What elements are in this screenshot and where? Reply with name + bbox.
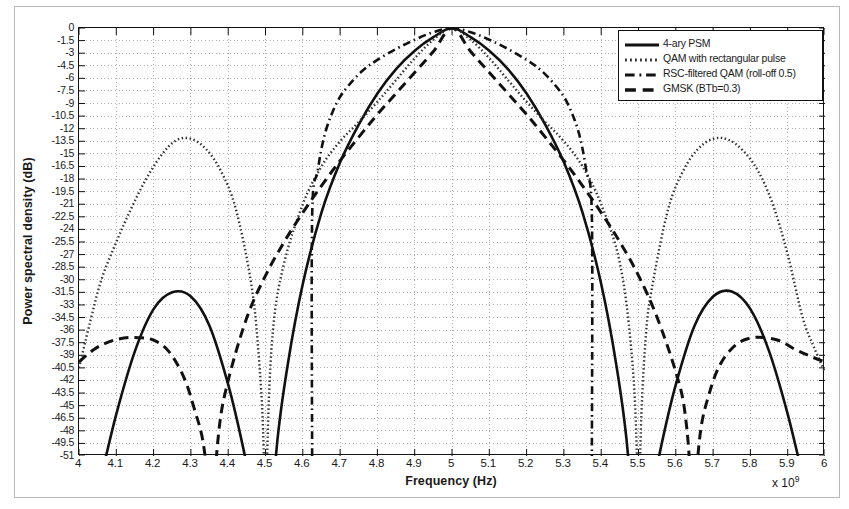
- x-tick-label: 4.2: [145, 457, 160, 469]
- x-axis-title: Frequency (Hz): [78, 474, 824, 488]
- x-tick-label: 5.3: [555, 457, 570, 469]
- y-tick-label: -6: [65, 72, 74, 83]
- y-tick-label: -34.5: [52, 311, 74, 322]
- legend-item-label: QAM with rectangular pulse: [663, 53, 785, 64]
- y-tick-label: -15: [60, 148, 74, 159]
- legend-item-3[interactable]: GMSK (BTb=0.3): [624, 81, 817, 95]
- chart-legend: 4-ary PSMQAM with rectangular pulseRSC-f…: [618, 30, 823, 101]
- y-tick-label: -24: [60, 223, 74, 234]
- x-tick-label: 6: [821, 457, 827, 469]
- x-tick-label: 5.8: [742, 457, 757, 469]
- x-axis-multiplier-exponent: 9: [795, 474, 800, 484]
- y-tick-label: -18: [60, 173, 74, 184]
- x-tick-label: 4.1: [108, 457, 123, 469]
- y-tick-label: -4.5: [57, 60, 74, 71]
- legend-item-1[interactable]: QAM with rectangular pulse: [624, 51, 817, 65]
- x-tick-label: 4: [75, 457, 81, 469]
- y-tick-label: 0: [68, 22, 74, 33]
- x-tick-label: 5: [448, 457, 454, 469]
- x-tick-label: 5.6: [667, 457, 682, 469]
- y-tick-label: -33: [60, 299, 74, 310]
- x-tick-label: 4.4: [219, 457, 234, 469]
- y-tick-label: -25.5: [52, 236, 74, 247]
- y-tick-label: -27: [60, 248, 74, 259]
- series-path-2: [312, 28, 593, 456]
- legend-item-label: 4-ary PSM: [663, 38, 710, 49]
- legend-line-sample-icon: [624, 67, 660, 79]
- x-tick-label: 4.6: [294, 457, 309, 469]
- y-tick-label: -48: [60, 425, 74, 436]
- legend-item-0[interactable]: 4-ary PSM: [624, 36, 817, 50]
- y-tick-label: -3: [65, 47, 74, 58]
- y-tick-label: -31.5: [52, 286, 74, 297]
- y-tick-label: -39: [60, 349, 74, 360]
- y-tick-label: -49.5: [52, 437, 74, 448]
- x-tick-label: 4.8: [369, 457, 384, 469]
- legend-line-sample-icon: [624, 37, 660, 49]
- legend-line-sample-icon: [624, 52, 660, 64]
- legend-item-label: RSC-filtered QAM (roll-off 0.5): [663, 68, 796, 79]
- y-tick-label: -28.5: [52, 261, 74, 272]
- x-axis-multiplier: x 109: [772, 474, 799, 490]
- x-tick-label: 5.2: [518, 457, 533, 469]
- x-axis-multiplier-base: x 10: [772, 476, 795, 490]
- y-tick-label: -9: [65, 97, 74, 108]
- x-tick-label: 4.9: [406, 457, 421, 469]
- y-tick-label: -22.5: [52, 211, 74, 222]
- x-tick-label: 4.5: [257, 457, 272, 469]
- legend-line-sample-icon: [624, 82, 660, 94]
- y-tick-label: -19.5: [52, 185, 74, 196]
- y-tick-label: -7.5: [57, 85, 74, 96]
- x-tick-label: 4.3: [182, 457, 197, 469]
- x-axis-tick-labels: 44.14.24.34.44.54.64.74.84.955.15.25.35.…: [78, 457, 824, 475]
- x-tick-label: 5.7: [704, 457, 719, 469]
- y-tick-label: -43.5: [52, 387, 74, 398]
- figure-canvas: Power spectral density (dB) 0-1.5-3-4.5-…: [0, 0, 849, 509]
- y-tick-label: -16.5: [52, 160, 74, 171]
- x-tick-label: 4.7: [331, 457, 346, 469]
- y-tick-label: -36: [60, 324, 74, 335]
- y-tick-label: -46.5: [52, 412, 74, 423]
- y-tick-label: -21: [60, 198, 74, 209]
- y-tick-label: -37.5: [52, 336, 74, 347]
- legend-item-2[interactable]: RSC-filtered QAM (roll-off 0.5): [624, 66, 817, 80]
- y-tick-label: -10.5: [52, 110, 74, 121]
- x-tick-label: 5.4: [592, 457, 607, 469]
- y-tick-label: -30: [60, 274, 74, 285]
- x-tick-label: 5.9: [779, 457, 794, 469]
- x-tick-label: 5.5: [630, 457, 645, 469]
- y-tick-label: -1.5: [57, 34, 74, 45]
- x-tick-label: 5.1: [481, 457, 496, 469]
- y-tick-label: -51: [60, 450, 74, 461]
- y-tick-label: -12: [60, 122, 74, 133]
- y-tick-label: -13.5: [52, 135, 74, 146]
- y-tick-label: -42: [60, 374, 74, 385]
- y-tick-label: -45: [60, 399, 74, 410]
- y-tick-label: -40.5: [52, 362, 74, 373]
- y-axis-tick-labels: 0-1.5-3-4.5-6-7.5-9-10.5-12-13.5-15-16.5…: [0, 27, 74, 455]
- legend-item-label: GMSK (BTb=0.3): [663, 83, 740, 94]
